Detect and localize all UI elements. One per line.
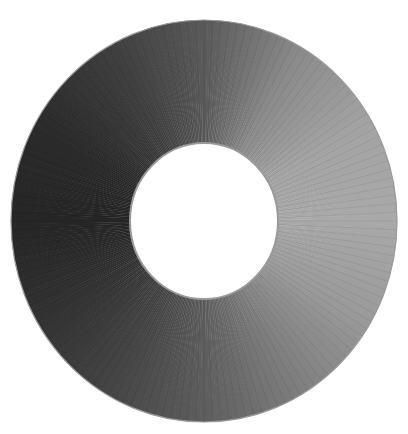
value-wheel-ring (0, 0, 408, 434)
ring-center-hole (130, 143, 278, 299)
value-wheel-figure (0, 0, 408, 434)
